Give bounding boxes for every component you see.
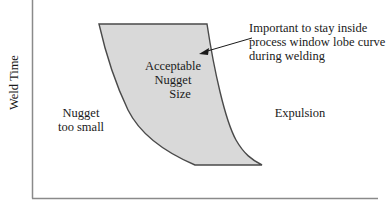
y-axis-label: Weld Time [7,90,22,110]
region-acceptable-line-3: Size [140,87,206,101]
region-too-small-line-1: Nugget [56,106,106,120]
region-acceptable-label: Acceptable Nugget Size [140,59,206,101]
region-acceptable-line-2: Nugget [140,73,206,87]
annotation-arrow-line [204,38,252,52]
annotation-line-3: during welding [249,49,385,63]
annotation-text: Important to stay inside process window … [249,21,385,63]
annotation-line-1: Important to stay inside [249,21,385,35]
annotation-line-2: process window lobe curve [249,35,385,49]
region-expulsion-label: Expulsion [268,106,332,120]
region-too-small-label: Nugget too small [56,106,106,134]
region-expulsion-line-1: Expulsion [268,106,332,120]
region-acceptable-line-1: Acceptable [140,59,206,73]
region-too-small-line-2: too small [56,120,106,134]
